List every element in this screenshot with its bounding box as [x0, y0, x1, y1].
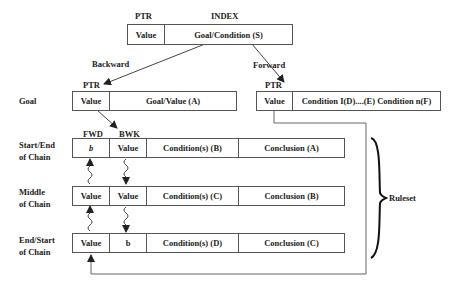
row-2-bwk-cell: Value [110, 187, 147, 205]
bwk-link-arrow-1 [124, 159, 128, 184]
index-value-cell: Value [128, 25, 165, 44]
forward-label: Forward [253, 60, 285, 70]
ruleset-label: Ruleset [389, 193, 416, 203]
row-2-side-line-1: Middle [19, 186, 50, 198]
row-1-side-line-2: of Chain [19, 151, 55, 163]
fwd-link-arrow-2 [88, 206, 92, 231]
forward-value-cell: Value [257, 92, 293, 110]
goal-ptr-label: PTR [83, 80, 100, 90]
goal-to-bwk-arrow [97, 110, 117, 128]
index-entry: Value Goal/Condition (S) [127, 24, 293, 45]
forward-content-cell: Condition I(D)....(E) Condition n(F) [293, 92, 440, 110]
backward-label: Backward [92, 59, 129, 69]
row-3-conditions-cell: Condition(s) (D) [147, 234, 239, 252]
row-1-side-line-1: Start/End [19, 139, 55, 151]
ruleset-brace [371, 138, 386, 258]
rule-row-2: Value Value Condition(s) (C) Conclusion … [72, 186, 345, 206]
index-ptr-label: PTR [135, 11, 152, 21]
forward-entry: Value Condition I(D)....(E) Condition n(… [256, 91, 441, 111]
row-2-conditions-cell: Condition(s) (C) [147, 187, 239, 205]
index-key-cell: Goal/Condition (S) [165, 25, 292, 44]
row-1-conclusion-cell: Conclusion (A) [239, 139, 344, 157]
row-3-side-label: End/Start of Chain [19, 234, 55, 258]
row-3-bwk-cell: b [110, 234, 147, 252]
row-2-side-label: Middle of Chain [19, 186, 50, 210]
goal-content-cell: Goal/Value (A) [110, 92, 236, 110]
forward-ptr-label: PTR [265, 80, 282, 90]
index-title: INDEX [211, 11, 238, 21]
row-3-fwd-cell: Value [73, 234, 110, 252]
bwk-link-arrow-2 [124, 207, 128, 232]
row-2-conclusion-cell: Conclusion (B) [239, 187, 344, 205]
row-1-bwk-cell: Value [110, 139, 147, 157]
row-3-conclusion-cell: Conclusion (C) [239, 234, 344, 252]
row-2-fwd-cell: Value [73, 187, 110, 205]
row-1-side-label: Start/End of Chain [19, 139, 55, 163]
row-1-conditions-cell: Condition(s) (B) [147, 139, 239, 157]
row-3-side-line-1: End/Start [19, 234, 55, 246]
goal-side-label: Goal [19, 96, 36, 106]
rule-row-1: b Value Condition(s) (B) Conclusion (A) [72, 138, 345, 158]
row-1-fwd-cell: b [73, 139, 110, 157]
fwd-link-arrow-1 [88, 159, 92, 184]
goal-entry: Value Goal/Value (A) [72, 91, 237, 111]
ruleset-index-diagram: PTR INDEX Value Goal/Condition (S) Backw… [0, 0, 451, 290]
row-3-side-line-2: of Chain [19, 246, 55, 258]
rule-row-3: Value b Condition(s) (D) Conclusion (C) [72, 233, 345, 253]
goal-value-cell: Value [73, 92, 110, 110]
row-2-side-line-2: of Chain [19, 198, 50, 210]
